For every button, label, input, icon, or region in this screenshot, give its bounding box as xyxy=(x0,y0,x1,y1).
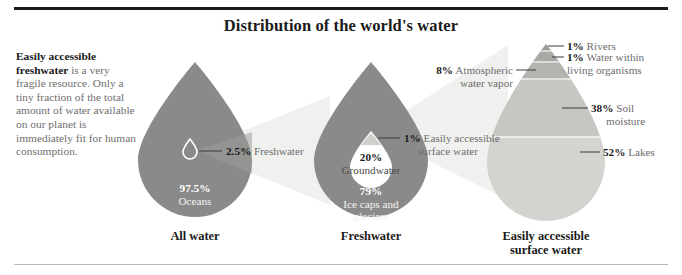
infographic-canvas: Distribution of the world's water Easily… xyxy=(0,0,682,275)
label-living-organisms: 1% Water within living organisms xyxy=(567,51,644,76)
label-surface-water-name-line1: Easily accessible xyxy=(424,132,500,144)
label-atmospheric-vapor-name-line2: water vapor xyxy=(398,77,513,90)
label-ice-caps-name-line2: glaciers xyxy=(321,210,421,223)
label-soil-moisture: 38% Soil moisture xyxy=(591,102,645,127)
label-freshwater: 2.5% Freshwater xyxy=(226,145,304,158)
label-surface-water-pct: 1% xyxy=(404,132,421,144)
label-freshwater-pct: 2.5% xyxy=(226,145,251,157)
label-living-organisms-name-line1: Water within xyxy=(586,51,644,63)
label-oceans: 97.5% Oceans xyxy=(145,182,245,207)
label-ice-caps: 79% Ice caps and glaciers xyxy=(321,185,421,223)
label-living-organisms-name-line2: living organisms xyxy=(567,64,644,77)
caption-surface-water-line2: surface water xyxy=(486,243,606,257)
label-atmospheric-vapor: 8% Atmospheric water vapor xyxy=(398,64,513,89)
caption-freshwater: Freshwater xyxy=(321,229,421,243)
label-soil-moisture-pct: 38% xyxy=(591,102,613,114)
label-oceans-name: Oceans xyxy=(145,195,245,208)
label-oceans-pct: 97.5% xyxy=(145,182,245,195)
label-groundwater-pct: 20% xyxy=(321,151,421,164)
label-ice-caps-name-line1: Ice caps and xyxy=(321,198,421,211)
label-living-organisms-pct: 1% xyxy=(567,51,584,63)
label-lakes: 52% Lakes xyxy=(603,146,655,159)
label-groundwater: 20% Groundwater xyxy=(321,151,421,176)
label-atmospheric-vapor-name-line1: Atmospheric xyxy=(455,64,513,76)
caption-surface-water: Easily accessible surface water xyxy=(486,229,606,257)
bottom-divider-rule xyxy=(14,264,668,265)
label-soil-moisture-name-line2: moisture xyxy=(591,115,645,128)
label-ice-caps-pct: 79% xyxy=(321,185,421,198)
label-lakes-pct: 52% xyxy=(603,146,625,158)
label-soil-moisture-name-line1: Soil xyxy=(616,102,634,114)
label-freshwater-name: Freshwater xyxy=(254,145,304,157)
caption-all-water: All water xyxy=(145,229,245,243)
label-lakes-name: Lakes xyxy=(628,146,655,158)
label-atmospheric-vapor-pct: 8% xyxy=(436,64,453,76)
caption-surface-water-line1: Easily accessible xyxy=(486,229,606,243)
label-groundwater-name: Groundwater xyxy=(321,164,421,177)
